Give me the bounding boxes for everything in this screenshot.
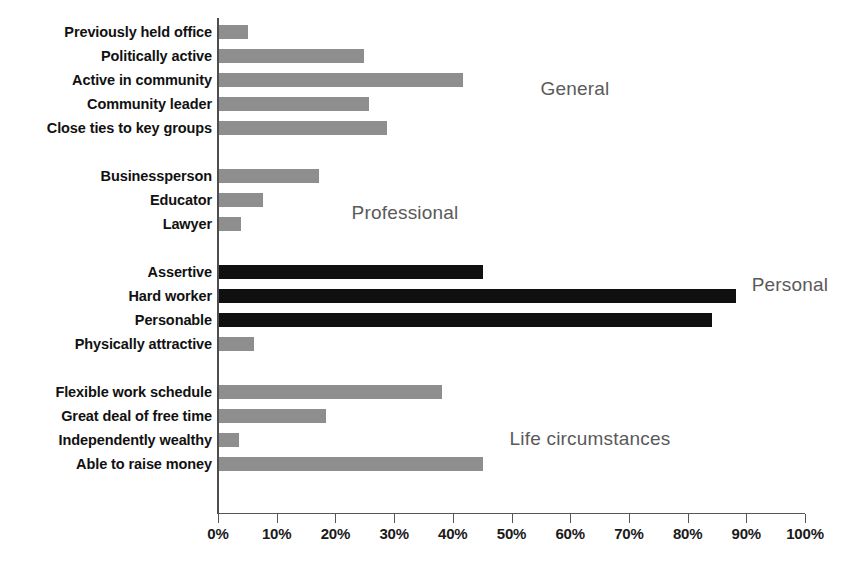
x-tick-30 [394,514,395,523]
x-tick-70 [629,514,630,523]
bar-category-label: Assertive [148,262,212,282]
x-tick-90 [746,514,747,523]
bar-row: Active in community [0,69,857,93]
bar-category-label: Flexible work schedule [55,382,212,402]
bar [219,169,319,183]
x-tick-label: 10% [247,525,307,542]
bar-category-label: Politically active [101,46,212,66]
x-tick-label: 50% [482,525,542,542]
x-tick-label: 60% [540,525,600,542]
x-tick-20 [335,514,336,523]
bar-category-label: Businessperson [101,166,212,186]
bar-category-label: Lawyer [163,214,212,234]
bar-row: Businessperson [0,165,857,189]
bar-category-label: Close ties to key groups [47,118,212,138]
bar-row: Independently wealthy [0,429,857,453]
bar-category-label: Active in community [72,70,212,90]
bar [219,217,241,231]
bar [219,73,463,87]
bar-category-label: Educator [150,190,212,210]
x-tick-label: 0% [188,525,248,542]
bar-category-label: Community leader [87,94,212,114]
bar [219,121,387,135]
bar-category-label: Able to raise money [76,454,212,474]
bar [219,337,254,351]
x-tick-label: 20% [305,525,365,542]
bar-row: Politically active [0,45,857,69]
x-tick-10 [277,514,278,523]
x-tick-60 [570,514,571,523]
bar-chart: 0%10%20%30%40%50%60%70%80%90%100% Previo… [0,0,857,577]
bar [219,409,326,423]
bar [219,265,483,279]
bar-category-label: Physically attractive [75,334,212,354]
bar [219,457,483,471]
bar-row: Flexible work schedule [0,381,857,405]
bar-category-label: Personable [135,310,212,330]
bar [219,49,364,63]
bar-row: Physically attractive [0,333,857,357]
bar-category-label: Great deal of free time [61,406,212,426]
x-tick-label: 40% [423,525,483,542]
bar-row: Personable [0,309,857,333]
group-label-personal: Personal [752,274,829,296]
bar-row: Close ties to key groups [0,117,857,141]
x-tick-label: 90% [716,525,776,542]
group-label-professional: Professional [352,202,459,224]
bar-category-label: Hard worker [128,286,212,306]
bar [219,313,712,327]
bar-row: Previously held office [0,21,857,45]
bar [219,385,442,399]
bar [219,97,369,111]
bar [219,289,736,303]
bar-row: Great deal of free time [0,405,857,429]
group-label-life-circumstances: Life circumstances [510,428,671,450]
x-tick-100 [805,514,806,523]
bar-row: Assertive [0,261,857,285]
x-tick-label: 80% [658,525,718,542]
bar-row: Able to raise money [0,453,857,477]
x-tick-0 [218,514,219,523]
group-label-general: General [541,78,610,100]
bar [219,25,248,39]
bar-category-label: Previously held office [64,22,212,42]
x-tick-50 [512,514,513,523]
x-tick-label: 30% [364,525,424,542]
bar-row: Community leader [0,93,857,117]
bar-row: Hard worker [0,285,857,309]
x-tick-label: 70% [599,525,659,542]
x-tick-80 [688,514,689,523]
bar [219,193,263,207]
bar [219,433,239,447]
x-tick-label: 100% [775,525,835,542]
bar-category-label: Independently wealthy [59,430,212,450]
x-tick-40 [453,514,454,523]
